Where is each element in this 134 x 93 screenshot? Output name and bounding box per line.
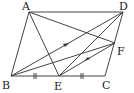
- label-D: D: [119, 0, 128, 13]
- arrow-icon-EF: [84, 57, 90, 61]
- geometry-diagram: A D B E C F: [0, 0, 134, 93]
- segment-BF: [11, 43, 115, 76]
- label-C: C: [102, 79, 110, 92]
- label-A: A: [21, 0, 31, 13]
- label-E: E: [54, 80, 62, 93]
- segment-AB: [11, 12, 29, 76]
- arrow-icon-BD: [63, 43, 69, 47]
- label-B: B: [2, 79, 10, 92]
- label-F: F: [117, 45, 125, 58]
